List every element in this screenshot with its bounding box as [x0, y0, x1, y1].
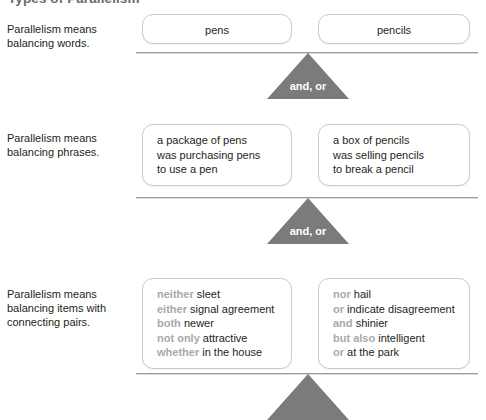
- pan-line-text: attractive: [203, 332, 248, 344]
- pan-line: both newer: [157, 316, 291, 331]
- pan-line: pens: [205, 24, 229, 36]
- row-description-phrases: Parallelism means balancing phrases.: [7, 131, 139, 159]
- pan-line: or indicate disagreement: [333, 302, 469, 317]
- pan-line: a box of pencils: [333, 133, 469, 148]
- description-line: Parallelism means: [7, 131, 139, 145]
- fulcrum-bottom: [267, 374, 349, 420]
- pan-line: neither sleet: [157, 287, 291, 302]
- triangle-icon: [267, 53, 349, 99]
- pan-line: was purchasing pens: [157, 148, 291, 163]
- description-line: balancing words.: [7, 36, 139, 50]
- pan-line: but also intelligent: [333, 331, 469, 346]
- pan-left-words: pens: [142, 14, 292, 44]
- pan-line-text: signal agreement: [190, 303, 274, 315]
- pan-line: a package of pens: [157, 133, 291, 148]
- pan-right-words: pencils: [318, 14, 470, 44]
- pan-line: and shinier: [333, 316, 469, 331]
- correlative-cue: or: [333, 303, 344, 315]
- correlative-cue: not only: [157, 332, 200, 344]
- pan-line-text: shinier: [356, 317, 388, 329]
- row-description-pairs: Parallelism means balancing items with c…: [7, 287, 139, 329]
- fulcrum-label: and, or: [267, 225, 349, 237]
- fulcrum-and-or: and, or: [267, 53, 349, 99]
- pan-left-phrases: a package of pens was purchasing pens to…: [142, 124, 292, 186]
- correlative-cue: either: [157, 303, 187, 315]
- pan-line: pencils: [377, 24, 411, 36]
- description-line: balancing phrases.: [7, 145, 139, 159]
- pan-line: was selling pencils: [333, 148, 469, 163]
- pan-line-text: newer: [184, 317, 214, 329]
- description-line: Parallelism means: [7, 22, 139, 36]
- pan-line: nor hail: [333, 287, 469, 302]
- pan-line-text: sleet: [197, 288, 220, 300]
- correlative-cue: neither: [157, 288, 194, 300]
- correlative-cue: whether: [157, 346, 199, 358]
- correlative-cue: or: [333, 346, 344, 358]
- fulcrum-and-or: and, or: [267, 198, 349, 244]
- row-description-words: Parallelism means balancing words.: [7, 22, 139, 50]
- description-line: Parallelism means: [7, 287, 139, 301]
- correlative-cue: and: [333, 317, 353, 329]
- triangle-icon: [267, 198, 349, 244]
- pan-line-text: at the park: [347, 346, 399, 358]
- pan-line: or at the park: [333, 345, 469, 360]
- pan-line-text: indicate disagreement: [347, 303, 455, 315]
- description-line: balancing items with: [7, 301, 139, 315]
- pan-line-text: hail: [354, 288, 371, 300]
- pan-right-pairs: nor hail or indicate disagreement and sh…: [318, 278, 470, 369]
- pan-line: either signal agreement: [157, 302, 291, 317]
- correlative-cue: nor: [333, 288, 351, 300]
- pan-line: whether in the house: [157, 345, 291, 360]
- correlative-cue: but also: [333, 332, 375, 344]
- pan-line-text: in the house: [202, 346, 262, 358]
- triangle-icon: [267, 374, 349, 420]
- pan-right-phrases: a box of pencils was selling pencils to …: [318, 124, 470, 186]
- description-line: connecting pairs.: [7, 315, 139, 329]
- pan-left-pairs: neither sleet either signal agreement bo…: [142, 278, 292, 369]
- pan-line: not only attractive: [157, 331, 291, 346]
- fulcrum-label: and, or: [267, 80, 349, 92]
- pan-line: to use a pen: [157, 162, 291, 177]
- correlative-cue: both: [157, 317, 181, 329]
- pan-line: to break a pencil: [333, 162, 469, 177]
- page-title: Types of Parallelism: [8, 0, 140, 6]
- pan-line-text: intelligent: [378, 332, 424, 344]
